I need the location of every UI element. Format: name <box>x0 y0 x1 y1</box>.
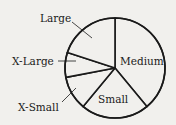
label-medium: Medium <box>120 55 164 67</box>
label-xlarge: X-Large <box>12 55 54 67</box>
label-large: Large <box>40 12 71 24</box>
label-xsmall: X-Small <box>18 101 59 113</box>
pie-chart: Large X-Large X-Small Medium Small <box>0 0 176 125</box>
label-small: Small <box>98 93 129 105</box>
